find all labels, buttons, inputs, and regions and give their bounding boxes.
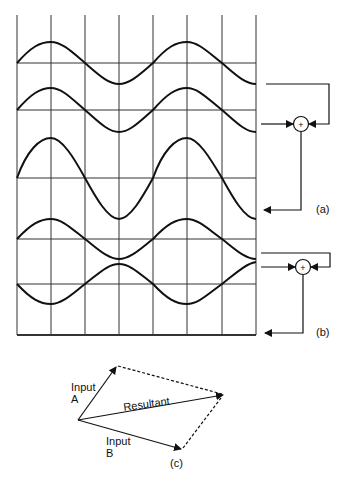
panel-label-a: (a) [316, 203, 329, 215]
plus-symbol-b: + [300, 263, 305, 273]
input-b-label-1: Input [106, 435, 130, 447]
input-b-label-2: B [106, 447, 113, 459]
input-a-label-1: Input [71, 381, 95, 393]
wave-b-input-2 [17, 262, 256, 304]
plus-symbol-a: + [298, 120, 303, 130]
resultant-label: Resultant [123, 395, 171, 413]
input-a-label-2: A [71, 393, 79, 405]
summing-junction-a [261, 84, 329, 210]
waveform-diagram: + (a) + (b) Input A Resultant Input B (c… [0, 0, 348, 482]
input-a-vector [78, 367, 116, 420]
panel-label-b: (b) [316, 326, 329, 338]
panel-label-c: (c) [170, 457, 183, 469]
summing-junction-b [261, 253, 330, 333]
